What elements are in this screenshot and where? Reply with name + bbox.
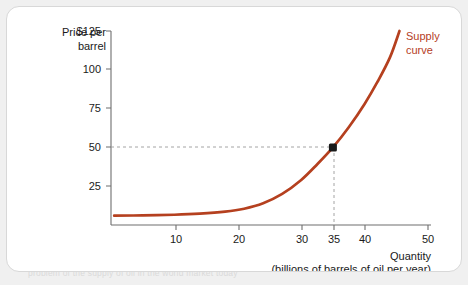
y-tick-label-50: 50 [89,141,101,153]
equilibrium-point-marker [329,143,337,151]
x-tick-label-40: 40 [359,233,371,245]
figure-panel: Price per barrel $125 100 75 50 25 [6,6,462,272]
x-tick-label-30: 30 [296,233,308,245]
y-tick-label-75: 75 [89,102,101,114]
x-tick-label-20: 20 [233,233,245,245]
x-axis-title-sub: (billions of barrels of oil per year) [271,263,431,272]
x-axis-title: Quantity [390,250,431,262]
y-axis-ticks [106,31,111,186]
x-tick-label-50: 50 [422,233,434,245]
supply-curve-label-line1: Supply [406,30,440,42]
supply-curve-label-line2: curve [406,44,433,56]
x-tick-label-35: 35 [328,233,340,245]
x-tick-label-10: 10 [170,233,182,245]
y-tick-label-125: $125 [77,25,101,37]
x-axis-ticks [176,225,428,230]
supply-curve-line [114,31,399,216]
y-tick-label-25: 25 [89,180,101,192]
y-tick-label-100: 100 [83,63,101,75]
x-axis-tick-labels: 10 20 30 35 40 50 [170,233,434,245]
y-axis-title-line2: barrel [78,40,106,52]
supply-curve-chart: Price per barrel $125 100 75 50 25 [7,7,462,272]
